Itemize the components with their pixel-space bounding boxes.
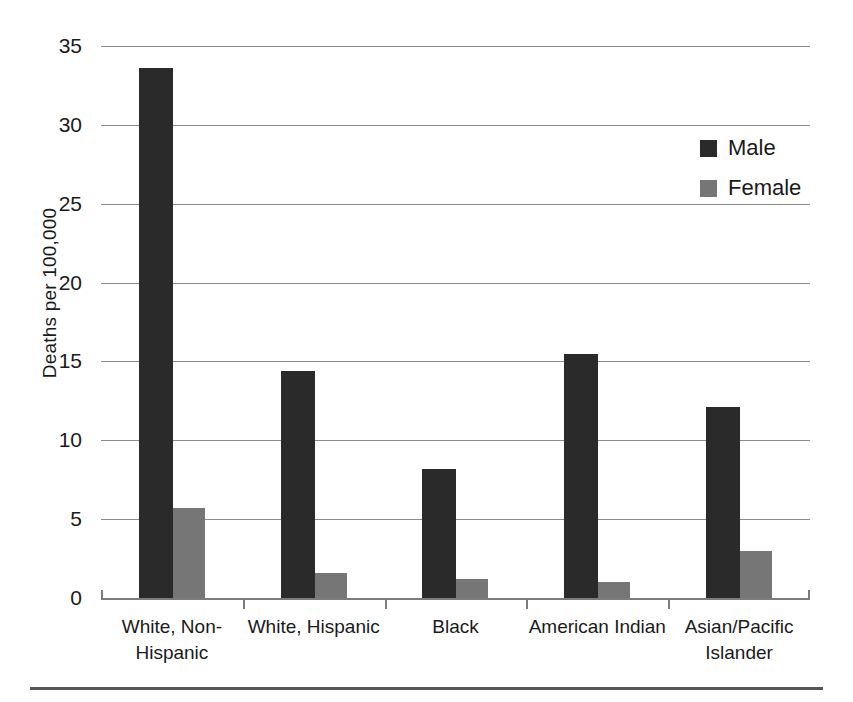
- bar-female[interactable]: [598, 582, 630, 598]
- y-axis-tick-label: 35: [26, 35, 82, 56]
- x-axis-end-tick: [808, 590, 810, 599]
- y-axis-tick-label: 10: [26, 429, 82, 450]
- bar-male[interactable]: [139, 68, 173, 598]
- bar-group: [385, 46, 527, 598]
- y-axis-tick-label: 0: [26, 587, 82, 608]
- x-axis-tick: [668, 598, 670, 609]
- bar-male[interactable]: [422, 469, 456, 598]
- bar-male[interactable]: [706, 407, 740, 598]
- y-axis-tick-label: 5: [26, 508, 82, 529]
- x-axis-tick: [243, 598, 245, 609]
- bar-group: [101, 46, 243, 598]
- bottom-divider-rule: [30, 687, 823, 690]
- y-axis-tick-labels: 35302520151050: [20, 46, 82, 598]
- legend: MaleFemale: [700, 128, 850, 208]
- legend-swatch-icon: [700, 180, 717, 197]
- bar-female[interactable]: [173, 508, 205, 598]
- y-axis-tick-label: 15: [26, 350, 82, 371]
- bar-group: [526, 46, 668, 598]
- y-axis-tick-label: 20: [26, 272, 82, 293]
- legend-label: Male: [728, 137, 776, 159]
- x-axis-tick: [526, 598, 528, 609]
- bar-female[interactable]: [740, 551, 772, 598]
- bar-female[interactable]: [315, 573, 347, 598]
- bar-male[interactable]: [281, 371, 315, 598]
- x-axis-line: [101, 598, 810, 600]
- bar-female[interactable]: [456, 579, 488, 598]
- bar-male[interactable]: [564, 354, 598, 598]
- bar-chart: Deaths per 100,000 35302520151050 White,…: [0, 0, 853, 702]
- x-axis-category-label: Asian/PacificIslander: [648, 614, 830, 666]
- legend-swatch-icon: [700, 140, 717, 157]
- y-axis-tick-label: 30: [26, 114, 82, 135]
- legend-label: Female: [728, 177, 801, 199]
- y-axis-tick-label: 25: [26, 193, 82, 214]
- x-axis-tick: [385, 598, 387, 609]
- bar-group: [243, 46, 385, 598]
- x-axis-end-tick: [101, 590, 103, 599]
- legend-item-male[interactable]: Male: [700, 128, 850, 168]
- legend-item-female[interactable]: Female: [700, 168, 850, 208]
